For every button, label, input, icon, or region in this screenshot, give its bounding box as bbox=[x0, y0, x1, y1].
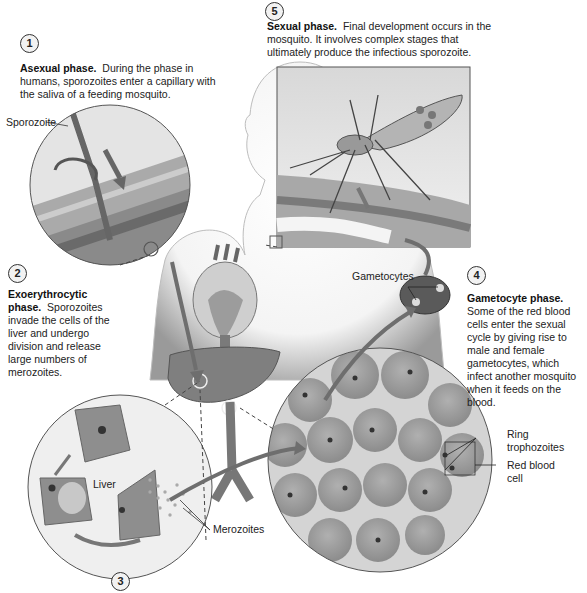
label-sporozoite: Sporozoite bbox=[6, 116, 56, 129]
label-liver: Liver bbox=[93, 478, 116, 491]
caption-sexual-phase: Sexual phase. Final development occurs i… bbox=[267, 20, 497, 59]
label-line-1: Ring bbox=[507, 428, 529, 440]
label-ring-trophozoites: Ring trophozoites bbox=[507, 428, 564, 454]
caption-asexual-phase: Asexual phase. During the phase in human… bbox=[20, 62, 230, 101]
step-number-4: 4 bbox=[467, 266, 486, 285]
label-gametocytes: Gametocytes bbox=[352, 270, 414, 283]
label-line-2: cell bbox=[507, 472, 523, 484]
step-number-3: 3 bbox=[111, 572, 130, 591]
caption-heading: Asexual phase. bbox=[20, 62, 96, 74]
step-number-2: 2 bbox=[8, 264, 27, 283]
label-line-1: Red blood bbox=[507, 459, 555, 471]
step-number-1: 1 bbox=[20, 34, 39, 53]
step-number-5: 5 bbox=[265, 2, 284, 21]
inset-liver-cells bbox=[28, 395, 212, 579]
caption-heading: Sexual phase. bbox=[267, 20, 337, 32]
caption-exoerythrocytic-phase: Exoerythrocytic phase. Sporozoites invad… bbox=[8, 288, 113, 379]
caption-heading: Gametocyte phase. bbox=[467, 292, 563, 304]
label-red-blood-cell: Red blood cell bbox=[507, 459, 555, 485]
inset-mosquito bbox=[277, 67, 470, 247]
caption-gametocyte-phase: Gametocyte phase. Some of the red blood … bbox=[467, 292, 585, 409]
caption-text: Some of the red blood cells enter the se… bbox=[467, 305, 576, 408]
inset-red-blood-cells bbox=[263, 348, 496, 572]
label-merozoites: Merozoites bbox=[213, 523, 264, 536]
label-line-2: trophozoites bbox=[507, 441, 564, 453]
